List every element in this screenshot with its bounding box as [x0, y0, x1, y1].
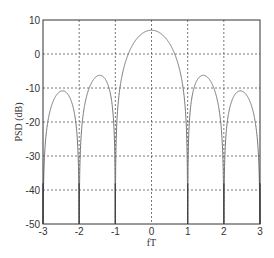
y-tick-label: -40	[26, 185, 41, 196]
psd-curve	[43, 30, 260, 224]
y-tick-label: -20	[26, 117, 41, 128]
x-tick-label: -2	[75, 226, 84, 237]
x-axis-label: fT	[147, 237, 156, 248]
x-tick-label: 3	[257, 226, 263, 237]
x-tick-label: 1	[185, 226, 191, 237]
y-tick-label: 0	[34, 49, 40, 60]
x-tick-label: 0	[149, 226, 155, 237]
x-tick-label: 2	[221, 226, 227, 237]
y-axis-label: PSD (dB)	[13, 102, 25, 141]
y-tick-label: -50	[26, 219, 41, 230]
y-tick-label: -10	[26, 83, 41, 94]
x-tick-label: -1	[111, 226, 120, 237]
psd-chart: -3-2-10123100-10-20-30-40-50fTPSD (dB)	[0, 0, 274, 258]
y-tick-label: -30	[26, 151, 41, 162]
y-tick-label: 10	[29, 15, 41, 26]
plot-area: -3-2-10123100-10-20-30-40-50fTPSD (dB)	[0, 0, 274, 258]
